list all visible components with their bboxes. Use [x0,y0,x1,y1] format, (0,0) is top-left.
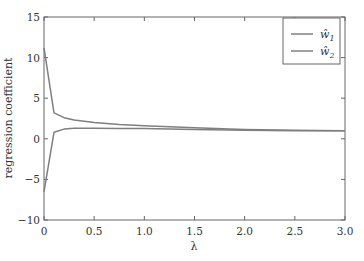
y-tick-label: 0 [33,133,40,145]
x-tick-label: 0 [41,225,48,237]
x-tick-label: 2.0 [236,225,253,237]
data-series [44,48,345,192]
y-tick-label: 5 [33,92,40,104]
regression-coefficient-chart: 00.51.01.52.02.53.0−10−5051015 λ regress… [0,0,364,261]
x-tick-label: 1.5 [186,225,203,237]
legend: ŵ1 ŵ2 [283,18,340,64]
series-line-w2 [44,128,345,191]
y-tick-label: −5 [25,173,40,185]
x-axis-label: λ [191,240,198,253]
x-tick-label: 1.0 [136,225,153,237]
y-tick-label: 15 [27,11,40,23]
y-axis-label: regression coefficient [2,57,15,178]
y-tick-label: 10 [27,52,40,64]
x-tick-label: 3.0 [337,225,354,237]
y-tick-label: −10 [18,214,40,226]
x-tick-label: 0.5 [86,225,103,237]
x-tick-label: 2.5 [286,225,303,237]
